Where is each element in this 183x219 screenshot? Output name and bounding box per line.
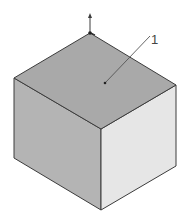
cube-diagram: 1 xyxy=(0,0,183,219)
callout-label: 1 xyxy=(151,32,158,47)
up-arrow-icon xyxy=(88,13,95,35)
